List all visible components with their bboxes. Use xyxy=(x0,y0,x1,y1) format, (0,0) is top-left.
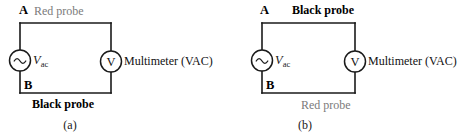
probe-label-bottom-a: Black probe xyxy=(32,98,94,110)
node-label-b-bottom-b: B xyxy=(266,79,274,92)
panel-b: V A Black probe B Red probe Vac Multimet… xyxy=(235,0,469,138)
multimeter-label-b: Multimeter (VAC) xyxy=(368,55,457,67)
ac-source-label-sub-b: ac xyxy=(283,59,291,69)
probe-label-bottom-b: Red probe xyxy=(301,99,351,111)
caption-b: (b) xyxy=(285,119,325,131)
probe-label-top-b: Black probe xyxy=(292,4,354,16)
ac-source-label-a: Vac xyxy=(33,54,48,67)
caption-a: (a) xyxy=(50,119,90,131)
probe-label-top-a: Red probe xyxy=(34,5,84,17)
circuit-diagram-b: V xyxy=(235,0,469,138)
ac-source-label-sub-a: ac xyxy=(41,59,49,69)
multimeter-label-a: Multimeter (VAC) xyxy=(124,55,213,67)
ac-source-label-main-a: V xyxy=(33,53,41,67)
node-label-a-top: A xyxy=(19,4,28,17)
circuit-diagram-a: V xyxy=(0,0,234,138)
voltmeter-symbol-a: V xyxy=(106,55,115,69)
ac-source-label-b: Vac xyxy=(275,54,290,67)
node-label-a-top-b: A xyxy=(260,4,269,17)
ac-source-label-main-b: V xyxy=(275,53,283,67)
voltmeter-symbol-b: V xyxy=(350,55,359,69)
figure-multimeter-probe-polarity: V A Red probe B Black probe Vac Multimet… xyxy=(0,0,469,138)
node-label-b-bottom: B xyxy=(24,79,32,92)
panel-a: V A Red probe B Black probe Vac Multimet… xyxy=(0,0,234,138)
